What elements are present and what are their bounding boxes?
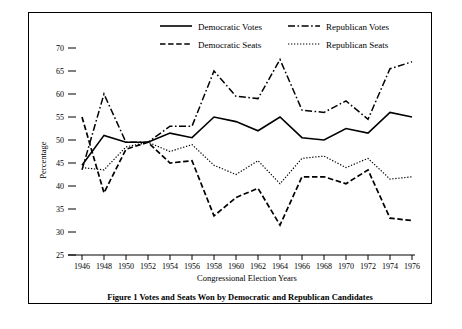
x-tick-label: 1968: [316, 262, 332, 271]
y-tick-label: 30: [56, 228, 64, 237]
x-axis: 1946194819501952195419561958196019621964…: [68, 255, 420, 271]
legend-label-democratic-votes: Democratic Votes: [198, 22, 262, 32]
legend-label-republican-seats: Republican Seats: [326, 40, 389, 50]
x-tick-label: 1946: [74, 262, 90, 271]
x-tick-label: 1956: [184, 262, 200, 271]
x-tick-label: 1952: [140, 262, 156, 271]
x-axis-title: Congressional Election Years: [197, 273, 297, 283]
x-tick-label: 1970: [338, 262, 354, 271]
figure-caption: Figure 1 Votes and Seats Won by Democrat…: [107, 292, 373, 302]
chart-series: [82, 60, 412, 226]
series-line-democratic-seats: [82, 117, 412, 225]
x-tick-label: 1972: [360, 262, 376, 271]
x-tick-label: 1964: [272, 262, 288, 271]
y-tick-label: 40: [56, 182, 64, 191]
y-tick-label: 35: [56, 205, 64, 214]
x-tick-label: 1954: [162, 262, 178, 271]
legend-label-democratic-seats: Democratic Seats: [198, 40, 262, 50]
x-tick-label: 1960: [228, 262, 244, 271]
y-axis: 25303540455055606570: [56, 44, 76, 260]
series-line-democratic-votes: [82, 112, 412, 165]
x-tick-label: 1962: [250, 262, 266, 271]
x-tick-label: 1966: [294, 262, 310, 271]
y-tick-label: 60: [56, 90, 64, 99]
y-tick-label: 70: [56, 44, 64, 53]
x-tick-label: 1950: [118, 262, 134, 271]
x-tick-label: 1948: [96, 262, 112, 271]
x-tick-label: 1976: [404, 262, 420, 271]
x-tick-label: 1974: [382, 262, 398, 271]
chart-svg: Democratic Votes Republican Votes Democr…: [0, 0, 462, 329]
y-tick-label: 55: [56, 113, 64, 122]
chart-legend: Democratic Votes Republican Votes Democr…: [160, 22, 389, 50]
y-tick-label: 65: [56, 67, 64, 76]
y-tick-label: 50: [56, 136, 64, 145]
y-axis-title: Percentage: [38, 141, 48, 179]
series-line-republican-seats: [82, 142, 412, 183]
y-tick-label: 45: [56, 159, 64, 168]
chart-container: Democratic Votes Republican Votes Democr…: [0, 0, 462, 329]
series-line-republican-votes: [82, 60, 412, 170]
legend-label-republican-votes: Republican Votes: [326, 22, 389, 32]
x-tick-label: 1958: [206, 262, 222, 271]
y-tick-label: 25: [56, 251, 64, 260]
